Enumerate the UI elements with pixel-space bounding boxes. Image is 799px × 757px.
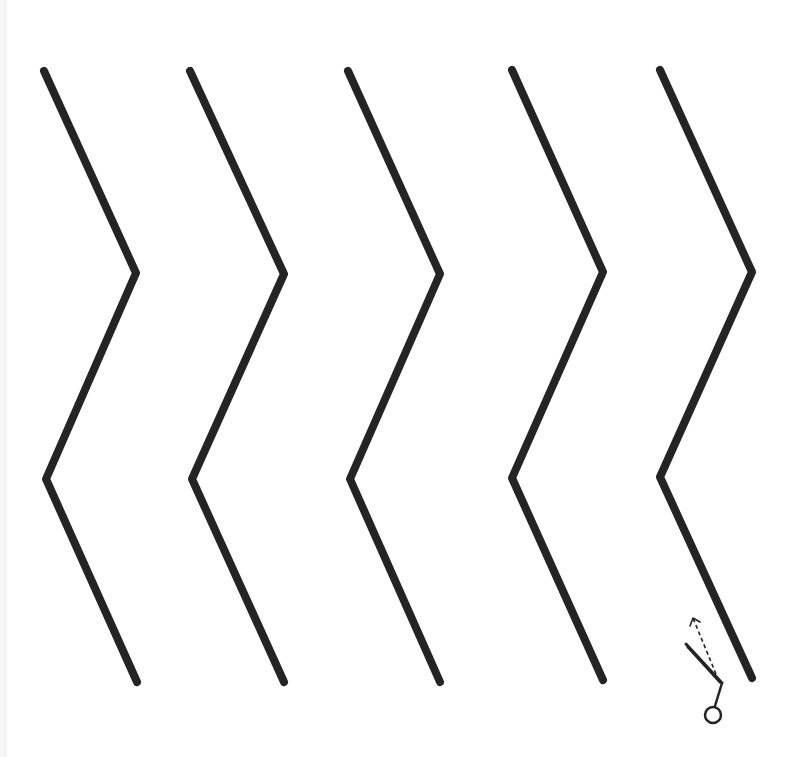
scissors-ring-handle xyxy=(705,707,721,723)
zigzag-line-2 xyxy=(190,71,284,682)
zigzag-line-1 xyxy=(44,71,137,682)
scissors-icon xyxy=(686,644,722,723)
zigzag-line-3 xyxy=(348,71,440,682)
scissors-shank xyxy=(715,683,722,706)
zigzag-line-4 xyxy=(512,70,603,680)
cutting-worksheet xyxy=(0,0,799,757)
scissors-blade-back xyxy=(688,647,720,682)
zigzag-line-5 xyxy=(660,70,752,678)
